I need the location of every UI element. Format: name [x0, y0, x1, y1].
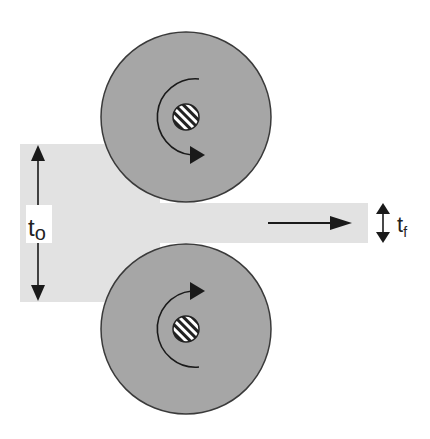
rolling-diagram: to tf: [0, 0, 430, 439]
top-roller: [101, 32, 271, 202]
final-thickness-dimension: tf: [376, 203, 407, 243]
final-thickness-label: tf: [397, 212, 407, 240]
top-roller-axle-icon: [173, 104, 199, 130]
bottom-roller: [101, 244, 271, 414]
bottom-roller-axle-icon: [173, 316, 199, 342]
